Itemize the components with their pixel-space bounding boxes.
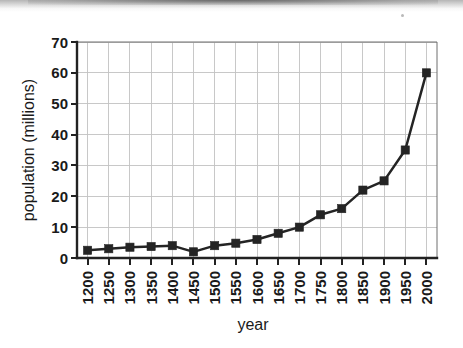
y-tick-label: 0	[60, 250, 68, 267]
x-tick-label: 1850	[354, 271, 371, 304]
data-point-marker	[168, 242, 176, 250]
x-tick-label: 1900	[376, 271, 393, 304]
x-tick-label: 1600	[249, 271, 266, 304]
x-tick-label: 1450	[185, 271, 202, 304]
data-point-marker	[211, 242, 219, 250]
x-tick-label: 1250	[100, 271, 117, 304]
data-point-marker	[105, 245, 113, 253]
x-tick-label: 1700	[291, 271, 308, 304]
x-tick-label: 1350	[143, 271, 160, 304]
data-point-marker	[189, 248, 197, 256]
y-tick-label: 20	[51, 188, 68, 205]
x-tick-label: 1800	[333, 271, 350, 304]
data-point-marker	[295, 223, 303, 231]
data-point-marker	[126, 243, 134, 251]
y-axis-title: population (millions)	[20, 79, 37, 221]
x-tick-label: 1400	[164, 271, 181, 304]
data-point-marker	[147, 242, 155, 250]
x-tick-label: 1500	[206, 271, 223, 304]
data-point-marker	[253, 235, 261, 243]
y-tick-label: 10	[51, 219, 68, 236]
chart-figure: 1200125013001350140014501500155016001650…	[0, 0, 463, 348]
y-tick-label: 60	[51, 64, 68, 81]
y-tick-label: 70	[51, 34, 68, 51]
data-point-marker	[359, 186, 367, 194]
y-tick-labels: 010203040506070	[51, 34, 68, 267]
x-tick-label: 1300	[121, 271, 138, 304]
data-point-marker	[380, 177, 388, 185]
data-point-marker	[316, 211, 324, 219]
y-tick-label: 40	[51, 126, 68, 143]
data-point-marker	[83, 246, 91, 254]
x-tick-label: 1550	[227, 271, 244, 304]
data-point-marker	[274, 229, 282, 237]
tick-marks	[71, 42, 426, 265]
data-point-marker	[401, 146, 409, 154]
x-axis-title: year	[237, 316, 269, 333]
x-tick-label: 1950	[397, 271, 414, 304]
x-tick-labels: 1200125013001350140014501500155016001650…	[79, 271, 435, 304]
y-tick-label: 30	[51, 157, 68, 174]
chart-canvas: 1200125013001350140014501500155016001650…	[0, 0, 463, 348]
x-tick-label: 1650	[270, 271, 287, 304]
gridlines	[77, 42, 437, 258]
data-point-marker	[232, 239, 240, 247]
data-point-marker	[338, 205, 346, 213]
x-tick-label: 1200	[79, 271, 96, 304]
x-tick-label: 1750	[312, 271, 329, 304]
data-point-marker	[422, 69, 430, 77]
y-tick-label: 50	[51, 95, 68, 112]
x-tick-label: 2000	[418, 271, 435, 304]
